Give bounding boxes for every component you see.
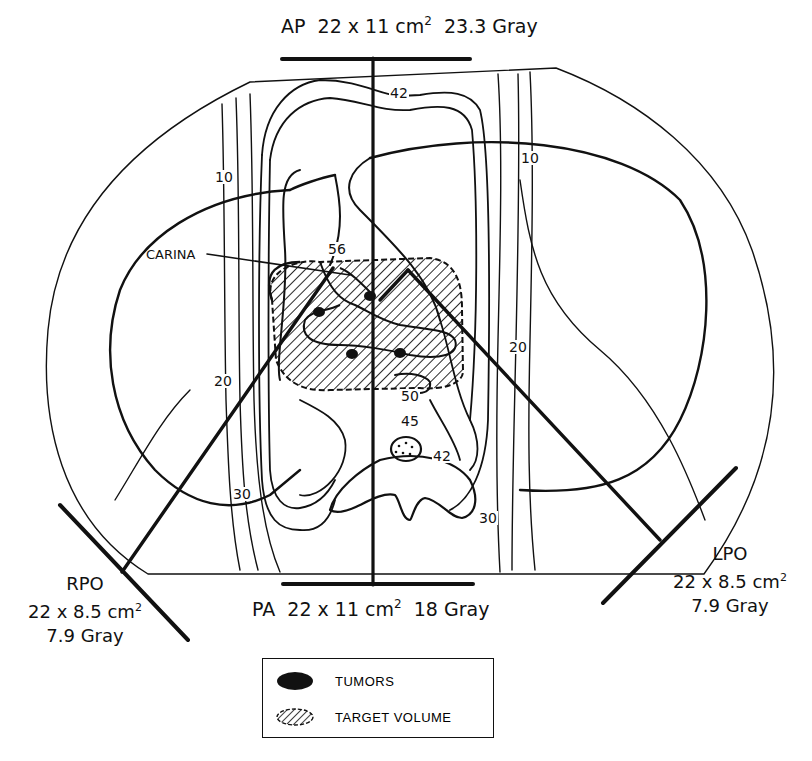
- ap-beam-label: AP 22 x 11 cm2 23.3 Gray: [281, 15, 538, 36]
- ap-dose: 23.3 Gray: [444, 15, 538, 37]
- isodose-label-30-right: 30: [478, 511, 498, 525]
- rpo-central-axis: [122, 268, 333, 572]
- rpo-dose: 7.9 Gray: [20, 624, 150, 648]
- rpo-field-size: 22 x 8.5 cm: [28, 601, 135, 622]
- lpo-beam-label: LPO 22 x 8.5 cm2 7.9 Gray: [660, 542, 800, 618]
- isodose-label-20-right: 20: [508, 340, 528, 354]
- lpo-dose: 7.9 Gray: [660, 594, 800, 618]
- isodose-label-42-top: 42: [389, 86, 409, 100]
- legend-item-target-volume: TARGET VOLUME: [275, 707, 452, 727]
- isodose-label-10-right: 10: [520, 151, 540, 165]
- target-volume-symbol-icon: [275, 707, 315, 727]
- isodose-label-30-left: 30: [232, 487, 252, 501]
- pa-beam-name: PA: [252, 598, 275, 620]
- isodose-label-10-left: 10: [214, 170, 234, 184]
- lpo-field-size: 22 x 8.5 cm: [673, 571, 780, 592]
- spinal-cord: [391, 437, 421, 461]
- target-volume: [269, 258, 463, 390]
- legend: TUMORS TARGET VOLUME: [262, 658, 494, 738]
- tumor-symbol-icon: [275, 671, 315, 691]
- isodose-label-45: 45: [400, 414, 420, 428]
- spine-outline: [330, 456, 475, 520]
- rpo-beam-label: RPO 22 x 8.5 cm2 7.9 Gray: [20, 572, 150, 648]
- ap-beam-name: AP: [281, 15, 305, 37]
- isodose-label-20-left: 20: [213, 374, 233, 388]
- carina-label: CARINA: [146, 248, 195, 261]
- right-lung-outline: [110, 190, 300, 505]
- isodose-label-42-spine: 42: [432, 449, 452, 463]
- pa-field-size: 22 x 11 cm: [287, 598, 394, 620]
- ap-field-size: 22 x 11 cm: [318, 15, 425, 37]
- lpo-beam-name: LPO: [660, 542, 800, 566]
- pa-dose: 18 Gray: [414, 598, 490, 620]
- pa-beam-label: PA 22 x 11 cm2 18 Gray: [252, 598, 489, 619]
- isodose-label-50: 50: [400, 389, 420, 403]
- lpo-central-axis: [408, 270, 660, 540]
- rpo-beam-name: RPO: [20, 572, 150, 596]
- isodose-label-56: 56: [327, 242, 347, 256]
- legend-item-tumors: TUMORS: [275, 671, 394, 691]
